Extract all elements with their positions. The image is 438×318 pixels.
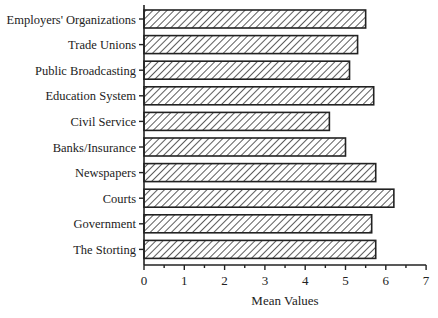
category-label: Public Broadcasting — [35, 64, 137, 78]
category-label: The Storting — [73, 243, 137, 257]
x-tick-label: 5 — [342, 273, 349, 288]
bars-group — [144, 10, 394, 258]
bar — [144, 36, 358, 54]
x-tick-label: 2 — [221, 273, 228, 288]
bar — [144, 215, 372, 233]
x-tick-label: 7 — [423, 273, 430, 288]
category-labels: Employers' OrganizationsTrade UnionsPubl… — [7, 13, 137, 257]
x-tick-label: 4 — [302, 273, 309, 288]
category-label: Civil Service — [70, 115, 136, 129]
category-label: Newspapers — [75, 166, 136, 180]
category-label: Banks/Insurance — [53, 141, 137, 155]
bar — [144, 240, 376, 258]
bar — [144, 61, 350, 79]
bar — [144, 164, 376, 182]
x-tick-label: 0 — [141, 273, 148, 288]
bar — [144, 138, 346, 156]
x-tick-label: 1 — [181, 273, 188, 288]
category-label: Employers' Organizations — [7, 13, 137, 27]
x-axis-title: Mean Values — [251, 293, 318, 308]
category-label: Government — [74, 217, 137, 231]
bar — [144, 189, 394, 207]
category-label: Education System — [45, 89, 136, 103]
category-label: Trade Unions — [68, 38, 136, 52]
bar — [144, 87, 374, 105]
bar — [144, 112, 329, 130]
x-tick-label: 6 — [383, 273, 390, 288]
bar-chart: Employers' OrganizationsTrade UnionsPubl… — [0, 0, 438, 318]
x-tick-label: 3 — [262, 273, 269, 288]
x-axis-ticks: 01234567 — [141, 265, 430, 288]
category-label: Courts — [103, 192, 136, 206]
bar — [144, 10, 366, 28]
